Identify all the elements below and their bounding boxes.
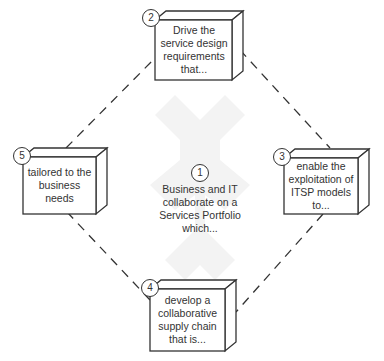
connector-2-3 [240, 50, 330, 148]
connector-5-2 [66, 58, 155, 148]
node-text-3: enable the exploitation of ITSP models t… [287, 160, 355, 212]
node-text-5: tailored to the business needs [25, 159, 94, 212]
connector-4-5 [68, 213, 150, 300]
node-text-2: Drive the service design requirements th… [158, 22, 230, 78]
step-number-1: 1 [191, 164, 209, 182]
center-statement: Business and IT collaborate on a Service… [143, 183, 257, 235]
node-text-4: develop a collaborative supply chain tha… [154, 291, 221, 349]
